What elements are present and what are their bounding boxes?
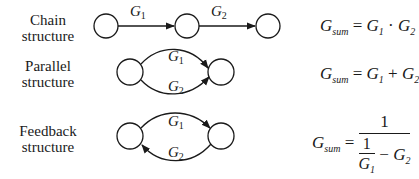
chain-g1-label: G1 <box>130 3 146 21</box>
feedback-node-right <box>208 123 234 149</box>
chain-formula: Gsum = G1 · G2 <box>320 16 415 37</box>
parallel-node-right <box>208 59 234 85</box>
feedback-g2-label: G2 <box>168 144 184 162</box>
feedback-node-left <box>117 123 143 149</box>
chain-g2-label: G2 <box>211 3 227 21</box>
parallel-formula: Gsum = G1 + G2 <box>320 64 419 85</box>
chain-diagram <box>94 14 280 38</box>
feedback-fraction: 1 1 G1 − G2 <box>359 112 411 175</box>
feedback-formula: Gsum = 1 1 G1 − G2 <box>312 112 410 175</box>
chain-node-1 <box>94 14 118 38</box>
parallel-g2-label: G2 <box>168 78 184 96</box>
chain-node-3 <box>256 14 280 38</box>
feedback-inner-fraction: 1 G1 <box>359 135 376 175</box>
feedback-g1-label: G1 <box>168 113 184 131</box>
parallel-node-left <box>117 59 143 85</box>
chain-node-2 <box>175 14 199 38</box>
